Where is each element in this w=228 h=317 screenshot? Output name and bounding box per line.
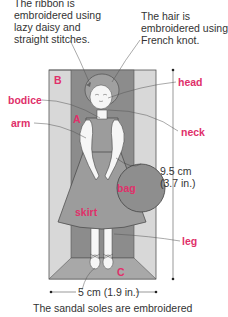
label-head: head bbox=[178, 76, 203, 88]
right-sandal bbox=[103, 255, 113, 269]
label-a: A bbox=[73, 113, 81, 125]
label-bag: bag bbox=[117, 182, 136, 194]
label-neck: neck bbox=[181, 126, 205, 138]
label-b: B bbox=[54, 74, 62, 86]
label-bodice: bodice bbox=[8, 94, 42, 106]
label-leg: leg bbox=[182, 235, 197, 247]
ribbon-callout: The ribbon is embroidered using lazy dai… bbox=[14, 0, 101, 45]
label-c: C bbox=[117, 266, 125, 278]
left-sandal bbox=[90, 255, 100, 269]
width-dimension: 5 cm (1.9 in.) bbox=[78, 286, 139, 298]
face bbox=[90, 85, 112, 109]
embroidery-diagram bbox=[0, 0, 228, 317]
hair-callout: The hair is embroidered using French kno… bbox=[141, 10, 228, 46]
label-skirt: skirt bbox=[75, 206, 97, 218]
height-dimension-cm: 9.5 cm bbox=[160, 165, 192, 177]
sandal-callout: The sandal soles are embroidered bbox=[33, 302, 192, 314]
label-arm: arm bbox=[11, 117, 30, 129]
height-dimension-in: (3.7 in.) bbox=[160, 177, 196, 189]
neck bbox=[97, 110, 107, 119]
